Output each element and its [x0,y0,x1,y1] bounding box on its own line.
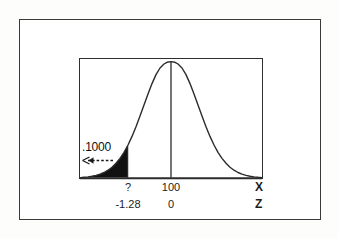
x-tick-mean: 100 [157,181,185,193]
axis-label-z: Z [255,197,262,211]
x-tick-unknown: ? [118,181,138,193]
tail-area-label: .1000 [82,140,111,154]
axis-label-x: X [255,180,263,194]
z-tick-boundary: -1.28 [107,198,149,210]
z-tick-zero: 0 [157,198,185,210]
figure-root: .1000 ? 100 -1.28 0 X Z [0,0,339,239]
left-arrow-dashed-icon [83,157,114,164]
